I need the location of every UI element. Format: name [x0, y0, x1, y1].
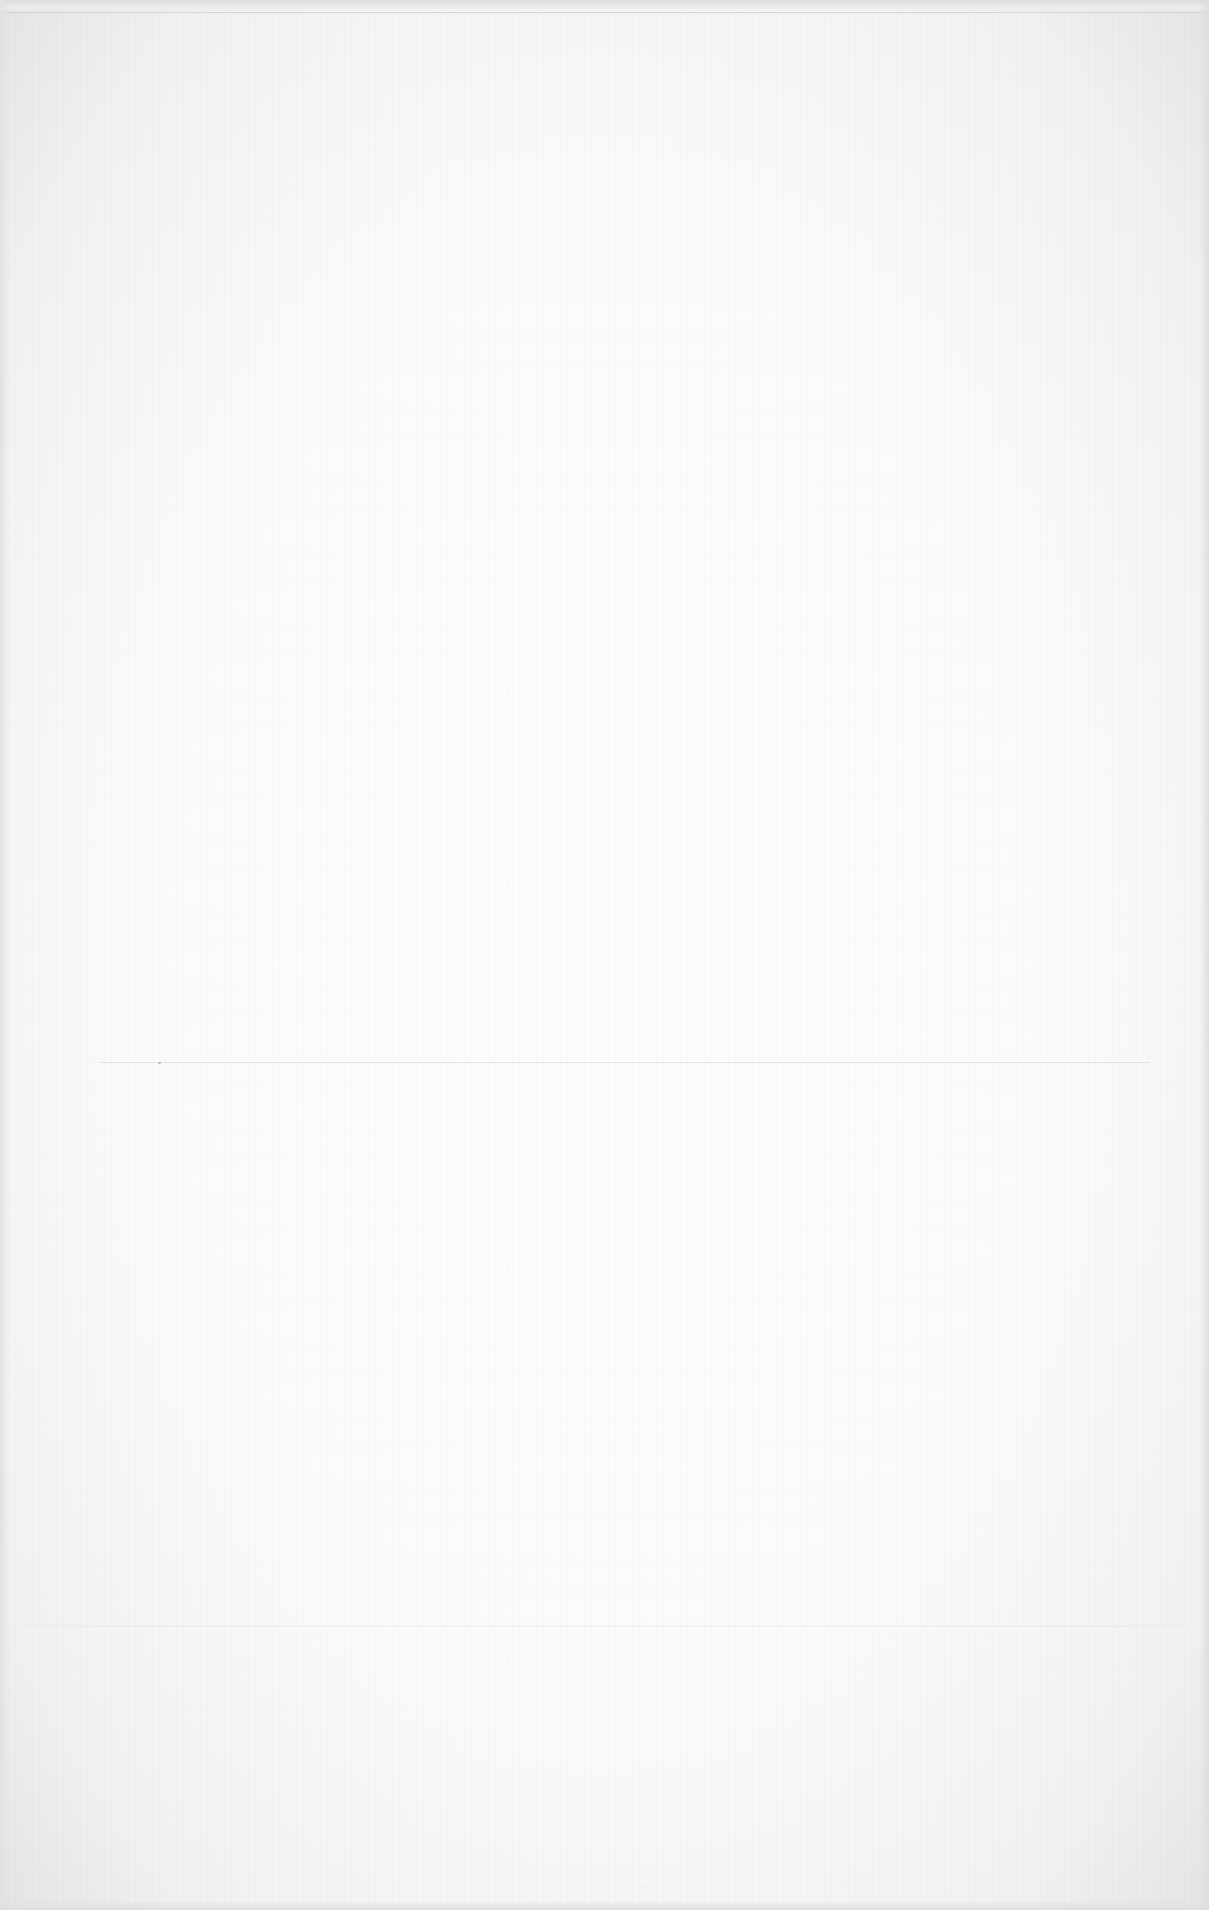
paper-texture: [0, 0, 1209, 1910]
scan-left-edge: [0, 0, 10, 1910]
lower-fold-line: [20, 1626, 1190, 1627]
paper-speck: [158, 1062, 161, 1064]
top-edge-line: [0, 12, 1209, 13]
scan-top-edge: [0, 0, 1209, 12]
blank-document-page: [0, 0, 1209, 1910]
middle-fold-line: [100, 1062, 1150, 1063]
scan-right-edge: [1199, 0, 1209, 1910]
scan-bottom-edge: [0, 1900, 1209, 1910]
